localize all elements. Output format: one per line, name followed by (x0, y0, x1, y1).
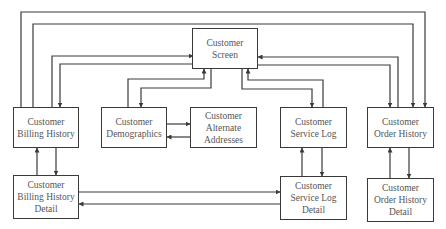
node-customer-screen[interactable]: Customer Screen (192, 28, 258, 69)
node-customer-billing-history-detail[interactable]: Customer Billing History Detail (13, 175, 79, 219)
node-customer-order-history-detail[interactable]: Customer Order History Detail (367, 178, 434, 222)
edge-screen-to-demographics (141, 69, 211, 107)
node-label: Customer Screen (207, 37, 244, 61)
node-label: Customer Service Log Detail (290, 180, 336, 216)
edge-screen-to-service (242, 69, 312, 107)
node-label: Customer Demographics (106, 116, 161, 140)
node-customer-demographics[interactable]: Customer Demographics (101, 107, 167, 148)
node-label: Customer Billing History Detail (17, 179, 74, 215)
node-label: Customer Order History (374, 116, 427, 140)
node-customer-service-log-detail[interactable]: Customer Service Log Detail (280, 176, 347, 220)
node-customer-service-log[interactable]: Customer Service Log (280, 107, 347, 148)
node-label: Customer Service Log (290, 116, 336, 140)
node-label: Customer Billing History (17, 116, 74, 140)
node-label: Customer Alternate Addresses (204, 110, 243, 146)
node-customer-alternate-addresses[interactable]: Customer Alternate Addresses (190, 107, 257, 148)
node-customer-order-history[interactable]: Customer Order History (367, 107, 434, 148)
edge-screen-to-billing (60, 64, 193, 107)
node-label: Customer Order History Detail (374, 182, 427, 218)
node-customer-billing-history[interactable]: Customer Billing History (13, 107, 79, 148)
edge-screen-to-order (258, 65, 390, 107)
